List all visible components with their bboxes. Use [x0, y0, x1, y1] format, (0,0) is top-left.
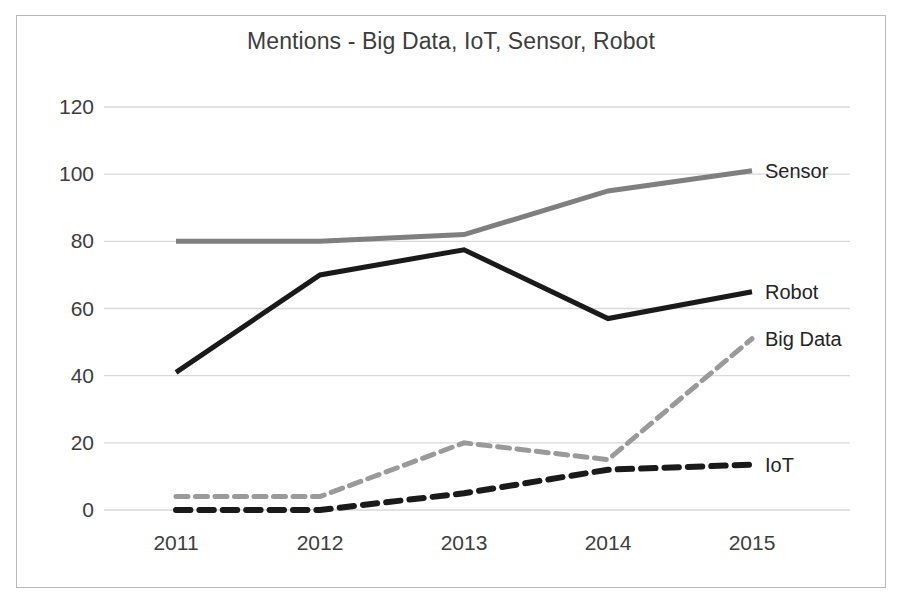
- series-label-robot: Robot: [765, 282, 818, 302]
- series-line-robot: [176, 250, 752, 373]
- y-axis-tick-label: 120: [28, 96, 94, 117]
- x-axis-tick-label: 2012: [260, 532, 380, 553]
- y-axis-tick-label: 100: [28, 163, 94, 184]
- x-axis-tick-label: 2013: [404, 532, 524, 553]
- series-line-sensor: [176, 171, 752, 242]
- series-label-big-data: Big Data: [765, 329, 842, 349]
- y-axis-tick-label: 60: [28, 298, 94, 319]
- series-lines: [176, 171, 752, 510]
- series-label-sensor: Sensor: [765, 161, 828, 181]
- series-line-big-data: [176, 339, 752, 497]
- x-axis-tick-label: 2015: [692, 532, 812, 553]
- series-line-iot: [176, 465, 752, 510]
- x-axis-tick-label: 2011: [116, 532, 236, 553]
- gridlines: [104, 107, 850, 510]
- y-axis-tick-label: 0: [28, 499, 94, 520]
- y-axis-tick-label: 80: [28, 230, 94, 251]
- series-label-iot: IoT: [765, 455, 794, 475]
- x-axis-tick-label: 2014: [548, 532, 668, 553]
- chart-container: Mentions - Big Data, IoT, Sensor, Robot …: [0, 0, 902, 604]
- y-axis-tick-label: 20: [28, 432, 94, 453]
- y-axis-tick-label: 40: [28, 365, 94, 386]
